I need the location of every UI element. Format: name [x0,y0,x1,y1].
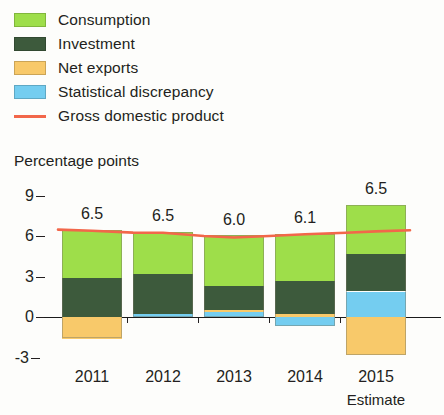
bar-segment-2015-consumption [346,205,406,253]
y-tick-mark-9 [36,196,45,197]
bar-segment-2012-investment [133,274,193,314]
bar-segment-2014-net-exports [275,314,335,317]
y-tick-label-neg3: -3 [3,349,29,367]
x-axis-label-2011: 2011 [52,368,132,386]
bar-segment-2013-statistical-discrepancy [204,312,264,317]
zero-baseline [44,317,441,318]
legend-label-gross-domestic-product: Gross domestic product [58,107,224,125]
bar-segment-2012-statistical-discrepancy [133,314,193,317]
bar-segment-2015-net-exports [346,317,406,355]
bar-segment-2011-net-exports [62,317,122,339]
bar-segment-2015-statistical-discrepancy [346,292,406,318]
bar-outline-2011 [62,230,122,339]
legend-label-net-exports: Net exports [58,59,138,77]
x-axis-label-2012: 2012 [123,368,203,386]
legend-line-gross-domestic-product [14,115,46,118]
legend-item-statistical-discrepancy: Statistical discrepancy [14,80,314,104]
data-label-2013: 6.0 [199,211,269,229]
y-tick-mark-neg3 [31,358,40,359]
bar-segment-2014-consumption [275,234,335,281]
bar-outline-2012 [133,232,193,318]
y-tick-label-6: 6 [8,227,34,245]
bar-2015 [346,0,406,415]
legend-label-consumption: Consumption [58,11,150,29]
x-tick-mark-2 [269,318,270,323]
bar-segment-2011-consumption [62,230,122,278]
x-tick-mark-0 [127,318,128,323]
legend-item-net-exports: Net exports [14,56,314,80]
legend-item-investment: Investment [14,32,314,56]
bar-segment-2012-consumption [133,232,193,274]
bar-outline-2014 [275,234,335,326]
bar-outline-2013 [204,235,264,317]
y-axis-title: Percentage points [14,152,139,170]
x-tick-mark-1 [198,318,199,323]
x-axis-label-2014: 2014 [265,368,345,386]
legend-swatch-net-exports [14,61,46,75]
estimate-annotation: Estimate [331,391,421,408]
data-label-2014: 6.1 [270,209,340,227]
y-tick-label-0: 0 [8,308,34,326]
bar-outline-2015 [346,205,406,354]
legend-swatch-investment [14,37,46,51]
bar-segment-2011-investment [62,278,122,317]
y-tick-mark-0 [36,317,45,318]
y-tick-label-3: 3 [8,268,34,286]
y-tick-mark-6 [36,236,45,237]
x-tick-mark-3 [340,318,341,323]
legend-label-statistical-discrepancy: Statistical discrepancy [58,83,214,101]
bar-segment-2013-investment [204,286,264,310]
bar-segment-2014-statistical-discrepancy [275,317,335,326]
bar-segment-2013-consumption [204,235,264,286]
y-tick-label-9: 9 [8,187,34,205]
data-label-2015: 6.5 [341,180,411,198]
legend-label-investment: Investment [58,35,135,53]
bar-segment-2013-net-exports [204,310,264,312]
x-axis-label-2015: 2015 [336,368,416,386]
bar-segment-2015-investment [346,254,406,292]
y-tick-mark-3 [36,277,45,278]
bar-segment-2014-investment [275,281,335,315]
legend-swatch-statistical-discrepancy [14,85,46,99]
legend-item-gross-domestic-product: Gross domestic product [14,104,314,128]
chart-legend: Consumption Investment Net exports Stati… [14,8,314,128]
data-label-2012: 6.5 [128,207,198,225]
legend-swatch-consumption [14,13,46,27]
x-axis-label-2013: 2013 [194,368,274,386]
data-label-2011: 6.5 [57,205,127,223]
legend-item-consumption: Consumption [14,8,314,32]
